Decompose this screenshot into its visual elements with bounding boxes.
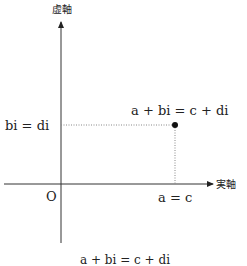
complex-plane-svg: [0, 0, 247, 266]
caption: a + bi = c + di: [80, 253, 170, 266]
imaginary-axis-label: 虚軸: [52, 3, 72, 17]
point-label: a + bi = c + di: [131, 104, 228, 118]
origin-label: O: [46, 190, 57, 204]
point: [172, 122, 178, 128]
y-value-label: bi = di: [5, 119, 49, 133]
x-value-label: a = c: [158, 191, 192, 205]
real-axis-label: 実軸: [216, 178, 236, 192]
